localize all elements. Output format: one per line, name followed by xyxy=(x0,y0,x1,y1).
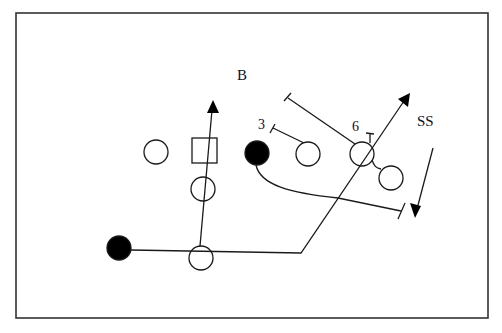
player-filled-lineman xyxy=(245,141,269,165)
label-b: B xyxy=(237,67,247,83)
player-motion-back xyxy=(107,236,131,260)
player-wing xyxy=(379,166,403,190)
label-6: 6 xyxy=(352,119,359,134)
player-left-lineman xyxy=(144,140,168,164)
label-ss: SS xyxy=(417,113,434,129)
diagram-frame xyxy=(16,13,488,318)
play-diagram: B 3 6 SS xyxy=(0,0,502,333)
player-tackle-3 xyxy=(296,142,320,166)
label-3: 3 xyxy=(258,117,265,132)
